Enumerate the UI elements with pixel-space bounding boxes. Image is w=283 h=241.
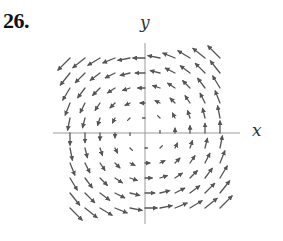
vector-arrow (153, 86, 160, 88)
vector-arrow (213, 76, 220, 88)
vector-arrow (128, 118, 130, 120)
vector-arrow (85, 193, 95, 203)
vector-arrow (115, 163, 120, 168)
vector-arrow (83, 118, 85, 128)
vector-arrow (200, 93, 205, 103)
vector-arrow (73, 58, 85, 68)
vector-arrow (205, 153, 210, 163)
vector-arrow (70, 178, 77, 190)
vector-arrow (78, 88, 85, 98)
vector-arrow (110, 103, 115, 108)
vector-arrow (98, 118, 100, 125)
vector-arrow (80, 103, 85, 113)
vector-arrow (175, 188, 185, 193)
vector-arrow (190, 186, 200, 193)
vector-arrow (208, 46, 220, 58)
vector-arrow (60, 73, 70, 85)
vector-arrow (85, 148, 87, 158)
vector-arrow (220, 181, 230, 193)
vector-arrow (203, 108, 205, 118)
vector-arrow (188, 111, 190, 118)
vector-arrow (175, 203, 187, 208)
vector-arrow (63, 88, 70, 100)
vector-arrow (118, 58, 130, 60)
vector-arrow (175, 173, 182, 178)
vector-arrow (205, 138, 207, 148)
vector-arrow (105, 73, 115, 78)
vector-arrow (70, 163, 75, 175)
vector-arrow (205, 198, 217, 208)
vector-arrow (95, 103, 100, 110)
vector-arrow (183, 81, 190, 88)
vector-arrow (130, 148, 132, 150)
vector-arrow (130, 163, 135, 165)
vector-arrow (100, 148, 102, 155)
vector-arrow (115, 178, 122, 183)
vector-arrow (108, 88, 115, 93)
vector-arrow (220, 151, 225, 163)
vector-arrow (220, 136, 222, 148)
vector-arrow (160, 206, 172, 208)
vector-arrow (190, 201, 202, 208)
vector-arrow (168, 83, 175, 88)
vector-arrow (85, 163, 90, 173)
vector-field-plot (0, 0, 283, 241)
vector-arrow (100, 193, 110, 200)
vector-arrow (210, 61, 220, 73)
vector-arrow (195, 63, 205, 73)
vector-arrow (85, 178, 92, 188)
vector-arrow (155, 101, 160, 103)
vector-arrow (123, 88, 130, 90)
vector-arrow (220, 166, 227, 178)
vector-arrow (218, 106, 220, 118)
vector-arrow (130, 178, 137, 180)
vector-arrow (190, 141, 192, 148)
vector-arrow (148, 56, 160, 58)
vector-arrow (115, 148, 117, 153)
vector-arrow (113, 118, 115, 123)
vector-arrow (205, 183, 215, 193)
vector-arrow (175, 143, 177, 148)
vector-arrow (103, 58, 115, 63)
vector-arrow (65, 103, 70, 115)
vector-arrow (70, 148, 72, 160)
vector-arrow (165, 68, 175, 73)
vector-arrow (100, 163, 105, 170)
vector-arrow (173, 113, 175, 118)
vector-arrow (120, 73, 130, 75)
vector-arrow (180, 66, 190, 73)
vector-arrow (193, 48, 205, 58)
vector-arrow (85, 208, 97, 218)
vector-arrow (185, 96, 190, 103)
vector-arrow (88, 58, 100, 65)
vector-arrow (215, 91, 220, 103)
vector-arrow (115, 208, 127, 213)
vector-arrow (130, 193, 140, 195)
vector-arrow (160, 146, 162, 148)
vector-arrow (125, 103, 130, 105)
vector-arrow (160, 176, 167, 178)
vector-arrow (220, 196, 232, 208)
vector-arrow (90, 73, 100, 80)
vector-arrow (115, 193, 125, 198)
vector-arrow (170, 98, 175, 103)
vector-arrow (190, 156, 195, 163)
vector-arrow (160, 161, 165, 163)
vector-arrow (70, 208, 82, 220)
vector-arrow (163, 53, 175, 58)
vector-arrow (70, 193, 80, 205)
vector-arrow (58, 58, 70, 70)
vector-arrow (93, 88, 100, 95)
vector-arrow (68, 118, 70, 130)
vector-arrow (205, 168, 212, 178)
vector-arrow (130, 208, 142, 210)
vector-arrow (100, 208, 112, 215)
vector-arrow (158, 116, 160, 118)
vector-arrow (190, 171, 197, 178)
vector-arrow (100, 178, 107, 185)
vector-arrow (175, 158, 180, 163)
vector-arrow (198, 78, 205, 88)
vector-arrow (160, 191, 170, 193)
vector-arrow (75, 73, 85, 83)
vector-arrow (150, 71, 160, 73)
